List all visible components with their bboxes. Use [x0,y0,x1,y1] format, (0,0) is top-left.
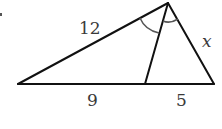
angle-arc-left [140,18,159,33]
triangle-diagram: 12 x 9 5 [0,0,222,129]
stray-mark [0,13,2,16]
side-left [18,3,168,84]
label-base-left: 9 [87,90,98,110]
label-left-side: 12 [79,18,101,38]
label-base-right: 5 [176,90,187,110]
label-right-side: x [202,31,212,51]
angle-bisector [145,3,168,84]
angle-arc-right [163,19,178,22]
